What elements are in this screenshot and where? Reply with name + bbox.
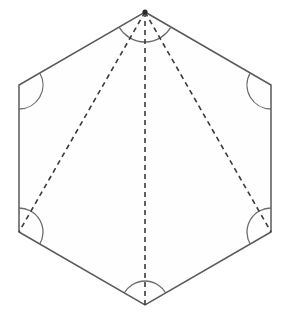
hexagon-diagram-canvas (0, 0, 291, 324)
top-vertex-dot (142, 9, 147, 14)
hexagon-figure (0, 0, 291, 324)
vertex-dot-layer (142, 9, 147, 14)
